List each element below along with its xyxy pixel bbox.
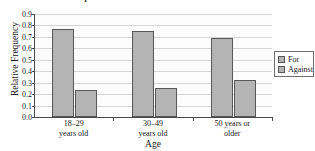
x-axis-category-label: 18–29years old xyxy=(34,119,113,139)
bar-against xyxy=(75,90,97,117)
x-axis-label-line: years old xyxy=(34,129,113,139)
x-axis-label-line: years old xyxy=(113,129,192,139)
x-axis-label-line: 30–49 xyxy=(113,119,192,129)
y-axis-tick-label: 0.4 xyxy=(6,67,32,76)
bar-against xyxy=(155,88,177,117)
plot-area: 0.00.10.20.30.40.50.60.70.80.9 xyxy=(34,14,272,117)
y-axis-tick-label: 0.9 xyxy=(6,10,32,19)
legend-label: For xyxy=(288,55,299,64)
y-axis-tick-label: 0.0 xyxy=(6,113,32,122)
y-axis-tick-label: 0.6 xyxy=(6,44,32,53)
x-axis-label-line: 18–29 xyxy=(34,119,113,129)
legend-item-for[interactable]: For xyxy=(278,54,311,64)
x-axis-label-line: 50 years or xyxy=(193,119,272,129)
x-axis-line xyxy=(34,117,272,118)
bar-for xyxy=(211,38,233,117)
x-axis-title: Age xyxy=(34,139,272,149)
bar-series-group xyxy=(35,14,272,117)
x-axis-tick-mark xyxy=(272,117,273,121)
chart-figure: Opinions on Health Care Relative Frequen… xyxy=(0,0,315,151)
y-axis-tick-label: 0.3 xyxy=(6,78,32,87)
legend-item-against[interactable]: Against xyxy=(278,64,311,74)
y-axis-tick-label: 0.7 xyxy=(6,32,32,41)
legend-swatch-icon xyxy=(278,56,285,63)
y-axis-tick-label: 0.5 xyxy=(6,55,32,64)
chart-title-clipped: Opinions on Health Care xyxy=(78,0,198,2)
y-axis-tick-label: 0.8 xyxy=(6,21,32,30)
bar-for xyxy=(52,29,74,117)
x-axis-category-label: 30–49years old xyxy=(113,119,192,139)
bar-against xyxy=(234,80,256,117)
y-axis-tick-label: 0.1 xyxy=(6,101,32,110)
y-axis-tick-label: 0.2 xyxy=(6,90,32,99)
legend-label: Against xyxy=(288,65,313,74)
x-axis-category-label: 50 years orolder xyxy=(193,119,272,139)
bar-for xyxy=(132,31,154,117)
x-axis-label-line: older xyxy=(193,129,272,139)
legend-swatch-icon xyxy=(278,66,285,73)
chart-title-text: Opinions on Health Care xyxy=(78,0,168,2)
legend: For Against xyxy=(274,51,314,77)
